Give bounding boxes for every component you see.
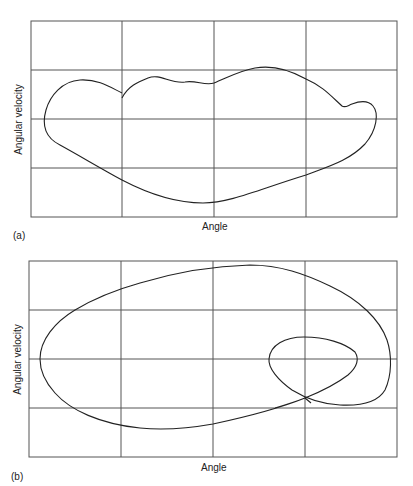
trajectory-curve-a [44, 67, 376, 203]
y-axis-label-a: Angular velocity [13, 80, 24, 160]
phase-plot-b [0, 240, 413, 486]
x-axis-label-a: Angle [202, 221, 228, 232]
figure-b: Angular velocity Angle (b) [0, 240, 413, 486]
x-axis-label-b: Angle [201, 462, 227, 473]
trajectory-curve-b [40, 265, 391, 429]
grid-a [31, 21, 397, 217]
figure-a: Angular velocity Angle (a) [0, 0, 413, 242]
y-axis-label-b: Angular velocity [12, 320, 23, 400]
panel-tag-b: (b) [11, 471, 23, 482]
grid-b [29, 261, 397, 457]
phase-plot-a [0, 0, 413, 242]
